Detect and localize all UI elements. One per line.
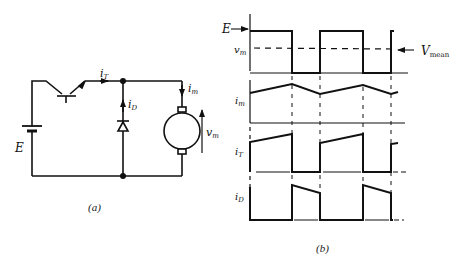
transistor-icon	[57, 81, 85, 103]
trace-vm	[250, 31, 408, 73]
trace-iD	[250, 185, 404, 220]
circuit-diagram	[22, 79, 202, 178]
label-E-wave: E	[221, 22, 231, 36]
trace-im	[250, 84, 405, 123]
label-iT: iT	[100, 67, 110, 81]
label-vm: vm	[206, 126, 219, 140]
caption-b: (b)	[316, 242, 329, 255]
figure-canvas: E iT iD im vm (a)	[0, 0, 456, 260]
dc-source-icon	[22, 120, 42, 176]
label-im-wave: im	[235, 95, 245, 108]
switching-guides	[292, 76, 391, 194]
diode-icon	[117, 121, 129, 131]
wire-left	[32, 81, 62, 120]
trace-iT	[250, 134, 406, 172]
waveform-panel	[231, 14, 414, 220]
label-vmean: Vmean	[421, 44, 450, 59]
label-iD-wave: iD	[235, 191, 244, 204]
label-vm-wave: vm	[234, 44, 247, 57]
figure: E iT iD im vm (a)	[0, 0, 456, 260]
label-source-E: E	[14, 141, 24, 155]
caption-a: (a)	[88, 201, 101, 214]
dc-motor-icon	[164, 107, 200, 154]
label-iT-wave: iT	[235, 146, 244, 159]
label-im: im	[188, 82, 199, 96]
junction-bottom	[121, 174, 125, 178]
label-iD: iD	[128, 98, 138, 112]
